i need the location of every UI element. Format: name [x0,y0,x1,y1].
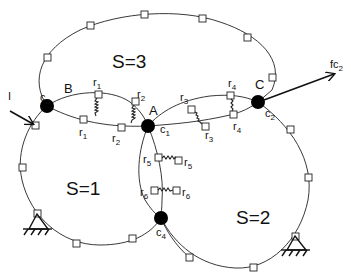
marker [87,22,94,29]
marker [129,235,136,242]
force-fc2-label: fc2 [330,58,344,73]
node-a [141,119,155,133]
lens-ad-right [148,126,162,218]
node-c4 [154,211,168,225]
loop-s1-outer [20,106,161,245]
spring-r3-top-anchor [188,106,195,113]
spring-r1-bottom-anchor [80,116,87,123]
spring-r5 [162,156,176,159]
spring-r4-top-anchor [227,92,234,99]
spring-r5-right-anchor [175,157,182,164]
spring-r2-bottom-anchor [118,124,125,131]
spring-r4 [231,99,233,111]
spring-r4-bottom-label: r4 [233,120,242,135]
spring-r2-bottom-label: r2 [112,132,121,147]
loop-s3-outer [39,14,275,106]
spring-r1-top-anchor [95,91,102,98]
marker [287,126,294,133]
spring-r6-left-anchor [151,187,158,194]
marker [244,34,251,41]
marker [199,15,206,22]
region-label-s3: S=3 [112,51,146,72]
marker [19,164,26,171]
spring-r3 [195,112,202,124]
marker [44,54,51,61]
marker [305,174,312,181]
spring-r6-right-anchor [173,187,180,194]
node-a-label: A [149,103,158,118]
lens-ad-left [139,126,161,218]
spring-r1 [95,98,98,116]
spring-r3-bottom-label: r3 [205,129,214,144]
right-loop-markers [186,126,312,271]
node-c-label: C [255,77,264,92]
spring-r4-bottom-anchor [230,111,237,118]
marker [32,122,39,129]
contact-c2-label: c2 [265,107,276,122]
spring-r5-left-label: r5 [143,153,152,168]
top-loop-markers [44,11,276,81]
marker [250,264,257,271]
spring-r1-top-label: r1 [93,76,102,91]
marker [73,240,80,247]
lens-ac-upper [148,95,258,126]
spring-r1-bottom-label: r1 [79,126,88,141]
spring-r5-left-anchor [155,154,162,161]
contact-c1-label: c1 [160,123,171,138]
spring-r3-top-label: r3 [180,91,189,106]
spring-r6-left-label: r6 [140,186,149,201]
spring-r5-right-label: r5 [184,156,193,171]
marker [141,11,148,18]
force-arrow-left [10,111,33,124]
region-label-s2: S=2 [236,207,270,228]
node-c [251,95,265,109]
node-b-label: B [64,81,73,96]
contact-graph-diagram: S=3 S=1 S=2 B A C c3 c1 c2 c4 r1 r1 r2 r… [0,0,351,276]
spring-r6 [158,188,173,191]
force-left-label: I [8,90,11,102]
marker [186,254,193,261]
spring-r2 [131,105,135,123]
contact-c4-label: c4 [156,226,167,241]
spring-r4-top-label: r4 [228,77,237,92]
spring-r6-right-label: r6 [182,186,191,201]
marker [269,74,276,81]
region-label-s1: S=1 [66,178,100,199]
